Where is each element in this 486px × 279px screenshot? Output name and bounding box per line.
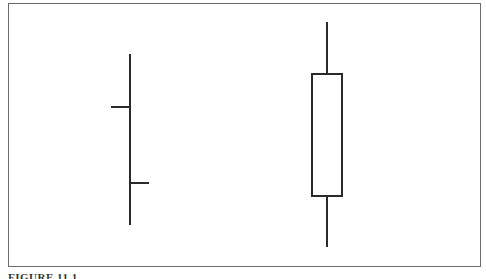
candlestick <box>312 22 342 247</box>
candlestick-body <box>312 74 342 196</box>
ohlc-bar <box>111 54 149 225</box>
chart-plot <box>0 0 486 279</box>
figure-caption: FIGURE 11.1 <box>8 272 78 279</box>
